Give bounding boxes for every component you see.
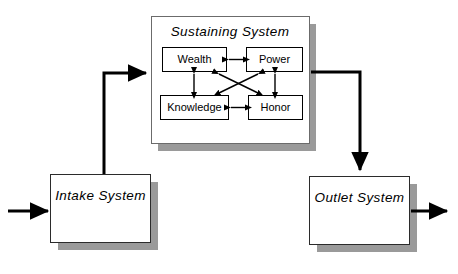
outlet-system-label: Outlet System [309,190,410,205]
diagram-graphics [0,0,458,274]
sustaining-system-label: Sustaining System [151,24,309,39]
outlet-system-box[interactable] [310,177,410,245]
node-label-wealth: Wealth [162,53,227,65]
node-label-knowledge: Knowledge [160,101,229,113]
diagram-canvas: Sustaining System Wealth Power Knowledge… [0,0,458,274]
node-label-honor: Honor [248,101,303,113]
node-label-power: Power [246,53,303,65]
intake-system-label: Intake System [50,188,151,203]
intake-system-box[interactable] [51,175,151,243]
connector-intake-to-sustaining [104,73,146,174]
connector-sustaining-to-outlet [311,72,360,170]
